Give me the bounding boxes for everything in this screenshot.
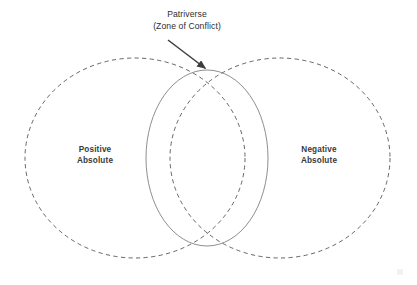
venn-diagram-canvas: Patriverse (Zone of Conflict) Positive A… [0, 0, 417, 285]
label-negative-absolute-line2: Absolute [301, 156, 338, 165]
label-negative-absolute-line1: Negative [301, 145, 337, 154]
venn-diagram-svg: Patriverse (Zone of Conflict) Positive A… [0, 0, 417, 285]
callout-title-line2: (Zone of Conflict) [153, 21, 221, 31]
corner-scan-artifact [397, 269, 403, 275]
set-circle-positive-absolute [25, 58, 245, 258]
intersection-ellipse-patriverse [146, 70, 268, 246]
set-circle-negative-absolute [170, 58, 390, 258]
label-positive-absolute-line2: Absolute [77, 156, 114, 165]
callout-title-line1: Patriverse [167, 9, 207, 19]
label-positive-absolute-line1: Positive [79, 145, 112, 154]
